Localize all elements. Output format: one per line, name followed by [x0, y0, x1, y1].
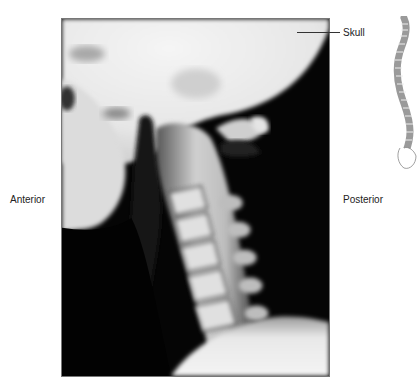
label-anterior: Anterior — [10, 194, 45, 205]
xray-image-graphic — [62, 19, 329, 376]
spine-lateral-diagram — [392, 16, 418, 172]
spine-icon — [392, 16, 418, 172]
skull-leader-line — [297, 32, 340, 33]
label-skull: Skull — [343, 27, 365, 38]
label-posterior: Posterior — [343, 194, 383, 205]
xray-image — [61, 18, 330, 377]
